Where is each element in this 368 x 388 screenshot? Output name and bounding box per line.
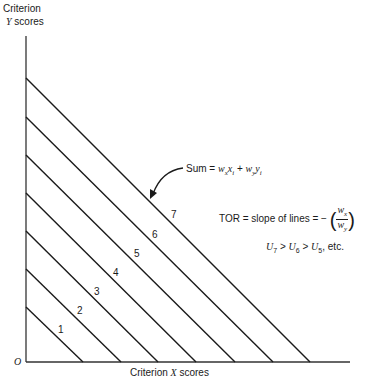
tor-fraction: wxwy: [336, 205, 348, 234]
x-label-post: scores: [179, 367, 208, 378]
arrow-icon: [153, 168, 183, 194]
y-scores: scores: [14, 16, 43, 27]
y-var: Y: [6, 16, 12, 27]
sum-term1: wxxi: [218, 163, 234, 174]
line-label-1: 1: [58, 325, 64, 335]
origin-label: O: [14, 356, 21, 367]
line-label-7: 7: [171, 210, 177, 220]
line-label-2: 2: [77, 306, 83, 316]
line-label-5: 5: [134, 249, 140, 259]
x-label-pre: Criterion: [130, 367, 168, 378]
sum-term2: wyyi: [246, 163, 262, 174]
line-label-4: 4: [113, 268, 119, 278]
utility-ordering: U7 > U6 > U5, etc.: [266, 241, 344, 256]
sum-label: Sum =: [186, 163, 215, 174]
iso-line-1: [26, 307, 83, 362]
tor-label: TOR = slope of lines = −: [219, 213, 327, 224]
iso-line-2: [26, 269, 121, 362]
line-label-3: 3: [94, 287, 100, 297]
sum-plus: +: [237, 163, 243, 174]
tor-annotation: TOR = slope of lines = − (wxwy): [219, 205, 355, 234]
arrowhead-icon: [150, 189, 157, 199]
x-var: X: [171, 367, 177, 378]
y-axis-label-line2: Y scores: [6, 16, 44, 27]
y-axis-label-line1: Criterion: [3, 3, 41, 14]
line-label-6: 6: [152, 230, 158, 240]
sum-annotation: Sum = wxxi + wyyi: [186, 163, 262, 179]
x-axis-label: Criterion X scores: [130, 367, 209, 378]
diagram-canvas: [0, 0, 368, 388]
